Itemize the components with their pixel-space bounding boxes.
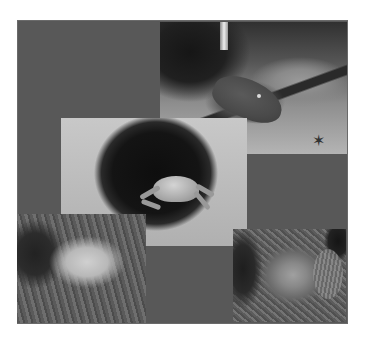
photo-collage: ✶ — [17, 20, 348, 324]
eel-eye — [257, 94, 261, 98]
scorpionfish-fin — [313, 249, 343, 299]
scorpionfish-photo — [233, 229, 346, 322]
eel-photo-tube — [220, 22, 228, 50]
crab-leg — [141, 199, 162, 211]
starfish-icon: ✶ — [312, 134, 332, 148]
hermit-crab-photo — [17, 214, 146, 323]
